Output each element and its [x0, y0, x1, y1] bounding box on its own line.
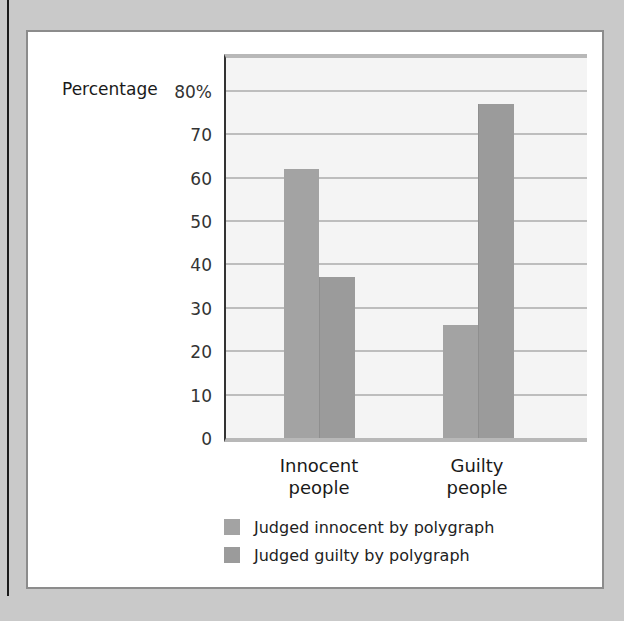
- y-tick-label: 40: [190, 255, 212, 275]
- legend-swatch-icon: [224, 547, 240, 563]
- legend: Judged innocent by polygraph Judged guil…: [224, 513, 494, 569]
- y-tick-label: 0: [201, 429, 212, 449]
- legend-swatch-icon: [224, 519, 240, 535]
- legend-label: Judged innocent by polygraph: [254, 518, 494, 537]
- y-tick-label: 70: [190, 125, 212, 145]
- y-tick-label: 50: [190, 212, 212, 232]
- y-tick-label: 30: [190, 299, 212, 319]
- y-axis-label: Percentage: [62, 79, 158, 99]
- plot-area: [224, 54, 587, 442]
- gridline: [226, 177, 587, 179]
- gridline: [226, 350, 587, 352]
- x-label-line1: Guilty: [417, 455, 537, 477]
- x-label-line2: people: [417, 477, 537, 499]
- x-label-guilty: Guilty people: [417, 455, 537, 499]
- gridline: [226, 263, 587, 265]
- legend-item-judged-innocent: Judged innocent by polygraph: [224, 513, 494, 541]
- y-tick-label: 10: [190, 386, 212, 406]
- bar-innocent-people-judged-innocent: [284, 169, 319, 438]
- x-label-line2: people: [259, 477, 379, 499]
- y-tick-label: 60: [190, 169, 212, 189]
- x-label-innocent: Innocent people: [259, 455, 379, 499]
- gridline: [226, 90, 587, 92]
- gridline: [226, 220, 587, 222]
- y-tick-label: 80%: [174, 82, 212, 102]
- gridline: [226, 307, 587, 309]
- page-margin-rule: [7, 0, 9, 596]
- legend-item-judged-guilty: Judged guilty by polygraph: [224, 541, 494, 569]
- legend-label: Judged guilty by polygraph: [254, 546, 470, 565]
- bar-guilty-people-judged-guilty: [478, 104, 514, 438]
- x-label-line1: Innocent: [259, 455, 379, 477]
- gridline: [226, 133, 587, 135]
- gridline: [226, 394, 587, 396]
- bar-innocent-people-judged-guilty: [319, 277, 355, 438]
- bar-guilty-people-judged-innocent: [443, 325, 478, 438]
- y-tick-label: 20: [190, 342, 212, 362]
